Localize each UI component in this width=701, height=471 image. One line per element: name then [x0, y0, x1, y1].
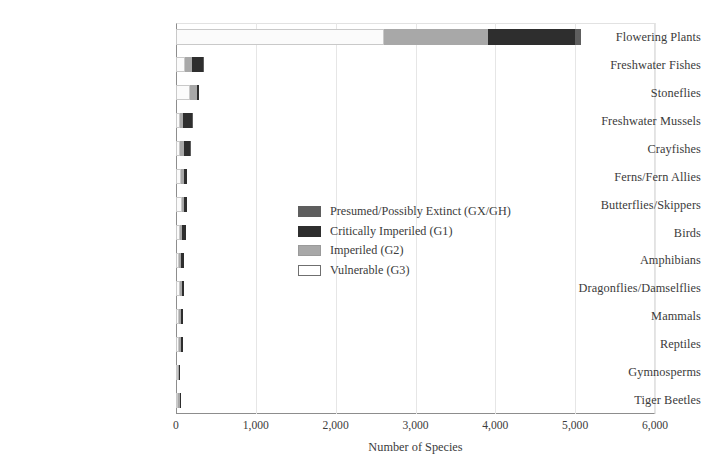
- bar-segment-g1: [184, 169, 188, 184]
- bar-segment-g1: [197, 85, 199, 100]
- bar-segment-g1: [488, 29, 575, 45]
- stacked-bar: [176, 113, 193, 128]
- category-row: Reptiles: [0, 330, 701, 359]
- bar-segment-g1: [192, 57, 203, 72]
- category-label: Freshwater Mussels: [533, 107, 701, 136]
- bar-segment-g1: [180, 393, 181, 408]
- category-label: Stoneflies: [533, 79, 701, 108]
- category-row: Flowering Plants: [0, 23, 701, 52]
- legend-item: Presumed/Possibly Extinct (GX/GH): [298, 202, 511, 222]
- stacked-bar: [176, 225, 186, 240]
- category-row: Stoneflies: [0, 79, 701, 108]
- legend-swatch-gx-icon: [298, 206, 321, 217]
- x-tick-label: 3,000: [376, 419, 456, 432]
- category-label: Butterflies/Skippers: [533, 191, 701, 220]
- bar-segment-gx: [192, 113, 193, 128]
- category-row: Crayfishes: [0, 135, 701, 164]
- legend-label: Critically Imperiled (G1): [330, 224, 453, 239]
- category-label: Amphibians: [533, 246, 701, 275]
- category-row: Freshwater Mussels: [0, 107, 701, 136]
- category-label: Crayfishes: [533, 135, 701, 164]
- bar-segment-g1: [181, 309, 183, 324]
- species-imperilment-chart: Flowering PlantsFreshwater FishesStonefl…: [0, 0, 701, 471]
- x-tick-label: 4,000: [455, 419, 535, 432]
- category-label: Tiger Beetles: [533, 386, 701, 415]
- bar-segment-g2: [384, 29, 488, 45]
- stacked-bar: [176, 141, 191, 156]
- category-label: Mammals: [533, 302, 701, 331]
- category-row: Mammals: [0, 302, 701, 331]
- bar-segment-g1: [181, 253, 184, 268]
- legend-label: Presumed/Possibly Extinct (GX/GH): [330, 204, 511, 219]
- bar-segment-g1: [184, 197, 186, 212]
- stacked-bar: [176, 393, 181, 408]
- category-row: Tiger Beetles: [0, 386, 701, 415]
- bar-segment-gx: [190, 141, 191, 156]
- category-label: Freshwater Fishes: [533, 51, 701, 80]
- bar-segment-g1: [182, 281, 184, 296]
- bar-segment-g2: [190, 85, 197, 100]
- category-label: Birds: [533, 219, 701, 248]
- legend-swatch-g2-icon: [298, 245, 321, 256]
- category-label: Dragonflies/Damselflies: [533, 274, 701, 303]
- legend-item: Imperiled (G2): [298, 241, 511, 261]
- legend-item: Vulnerable (G3): [298, 261, 511, 281]
- bar-segment-g1: [181, 337, 183, 352]
- bar-segment-g3: [176, 85, 190, 100]
- stacked-bar: [176, 309, 183, 324]
- bar-segment-g1: [179, 365, 180, 380]
- stacked-bar: [176, 281, 184, 296]
- stacked-bar: [176, 85, 199, 100]
- legend-swatch-g1-icon: [298, 226, 321, 237]
- bar-segment-g3: [176, 29, 384, 45]
- x-tick-label: 5,000: [535, 419, 615, 432]
- stacked-bar: [176, 169, 187, 184]
- x-tick-label: 0: [136, 419, 216, 432]
- bar-segment-g3: [176, 57, 185, 72]
- legend-swatch-g3-icon: [298, 265, 321, 276]
- category-row: Ferns/Fern Allies: [0, 163, 701, 192]
- category-row: Gymnosperms: [0, 358, 701, 387]
- legend: Presumed/Possibly Extinct (GX/GH)Critica…: [298, 202, 511, 280]
- bar-segment-g2: [185, 57, 192, 72]
- stacked-bar: [176, 197, 187, 212]
- stacked-bar: [176, 337, 183, 352]
- x-tick-label: 1,000: [216, 419, 296, 432]
- bar-segment-gx: [575, 29, 581, 45]
- legend-item: Critically Imperiled (G1): [298, 222, 511, 242]
- category-label: Ferns/Fern Allies: [533, 163, 701, 192]
- stacked-bar: [176, 253, 184, 268]
- bar-segment-g1: [183, 113, 191, 128]
- x-tick-label: 6,000: [615, 419, 695, 432]
- x-axis-title: Number of Species: [176, 440, 655, 455]
- stacked-bar: [176, 365, 180, 380]
- category-label: Reptiles: [533, 330, 701, 359]
- legend-label: Vulnerable (G3): [330, 263, 409, 278]
- x-tick-label: 2,000: [296, 419, 376, 432]
- bar-segment-gx: [203, 57, 204, 72]
- stacked-bar: [176, 57, 204, 72]
- category-row: Freshwater Fishes: [0, 51, 701, 80]
- bar-segment-g1: [182, 225, 185, 240]
- category-label: Gymnosperms: [533, 358, 701, 387]
- stacked-bar: [176, 29, 581, 45]
- legend-label: Imperiled (G2): [330, 243, 403, 258]
